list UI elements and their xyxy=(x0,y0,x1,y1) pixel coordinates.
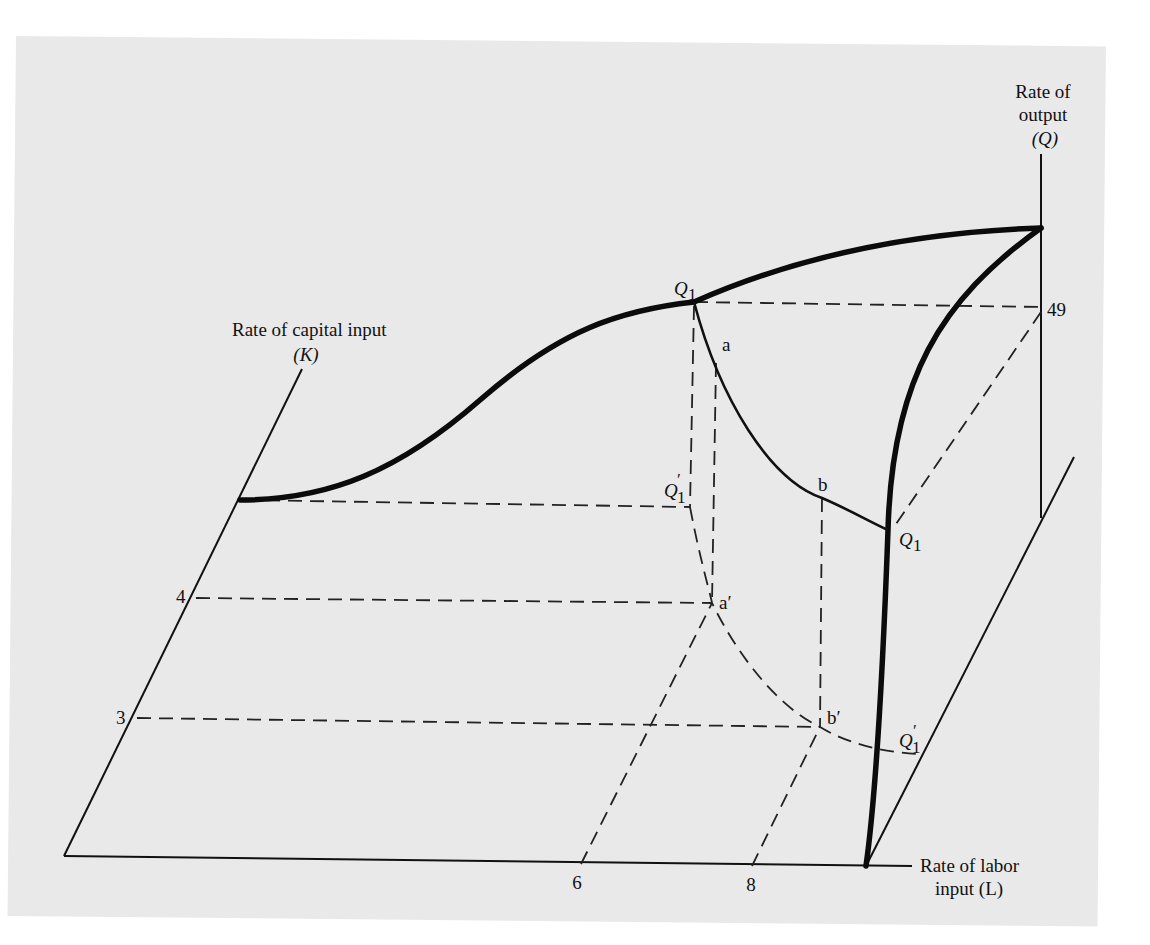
capital-axis xyxy=(64,369,302,856)
svg-text:1: 1 xyxy=(677,488,686,507)
guide-left-q1prime xyxy=(244,500,690,507)
svg-text:′: ′ xyxy=(677,470,681,489)
capital-tick-4: 4 xyxy=(176,586,186,607)
point-q1-prime-bottom-label: Q 1 ′ xyxy=(899,721,921,757)
svg-text:Q: Q xyxy=(674,278,688,299)
guide-a-vertical xyxy=(712,363,716,603)
labor-axis-label-2: input (L) xyxy=(935,878,1003,900)
output-axis-label-2: output xyxy=(1019,104,1068,125)
capital-tick-3: 3 xyxy=(116,707,126,728)
labor-axis-label-1: Rate of labor xyxy=(920,855,1020,876)
output-axis-label-1: Rate of xyxy=(1015,81,1071,102)
labor-tick-8: 8 xyxy=(746,874,756,895)
svg-text:1: 1 xyxy=(688,285,697,304)
point-a-label: a xyxy=(722,334,731,355)
guide-l8 xyxy=(752,727,820,866)
output-tick-49: 49 xyxy=(1047,299,1066,320)
guide-49-diagonal xyxy=(892,312,1041,530)
surface-edge-labor xyxy=(866,228,1041,866)
svg-text:Q: Q xyxy=(899,730,913,751)
production-surface-diagram: Rate of output (Q) 49 Rate of capital in… xyxy=(0,0,1150,945)
svg-text:′: ′ xyxy=(913,721,917,740)
labor-tick-6: 6 xyxy=(572,872,582,893)
point-b-prime-label: b′ xyxy=(827,707,841,728)
labor-axis xyxy=(64,856,912,866)
point-b-label: b xyxy=(818,474,828,495)
output-axis-symbol: (Q) xyxy=(1032,128,1058,150)
guide-l6 xyxy=(581,603,712,864)
guide-49 xyxy=(694,302,1041,307)
guide-b-vertical xyxy=(820,498,822,727)
svg-text:Q: Q xyxy=(664,480,678,501)
svg-text:Q: Q xyxy=(899,529,913,550)
point-q1-top-label: Q 1 xyxy=(674,278,697,304)
guide-k4 xyxy=(196,598,712,603)
svg-text:1: 1 xyxy=(912,738,921,757)
point-a-prime-label: a′ xyxy=(719,592,732,613)
svg-text:1: 1 xyxy=(913,536,922,555)
point-q1-right-label: Q 1 xyxy=(899,529,922,555)
floor-right-edge xyxy=(866,457,1074,866)
guide-k3 xyxy=(137,718,820,727)
guide-q1-vertical xyxy=(690,306,694,507)
point-q1-prime-left-label: Q 1 ′ xyxy=(664,470,686,507)
capital-axis-label: Rate of capital input xyxy=(232,319,387,340)
capital-axis-symbol: (K) xyxy=(293,344,318,366)
